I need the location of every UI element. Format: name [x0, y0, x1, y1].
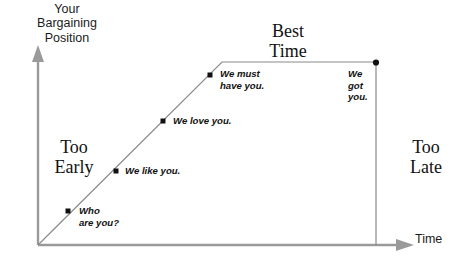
point-label-we-got-you: We got you.	[348, 68, 368, 103]
data-point-we-must-have-you	[208, 73, 213, 78]
point-label-who-are-you: Who are you?	[79, 205, 119, 228]
y-axis-title: Your Bargaining Position	[12, 2, 122, 45]
zone-label-best-time: Best Time	[243, 21, 333, 61]
arrow-up-icon	[32, 45, 44, 62]
point-label-we-must-have-you: We must have you.	[220, 68, 264, 91]
arrow-right-icon	[396, 239, 414, 251]
point-label-we-like-you: We like you.	[125, 165, 180, 177]
zone-label-too-late: Too Late	[396, 137, 456, 177]
bargaining-position-diagram: Your Bargaining Position Time Too Early …	[0, 0, 457, 261]
point-label-we-love-you: We love you.	[173, 115, 231, 127]
data-point-we-got-you	[373, 59, 379, 65]
zone-label-too-early: Too Early	[38, 137, 110, 177]
data-point-we-love-you	[161, 119, 166, 124]
data-point-we-like-you	[114, 169, 119, 174]
x-axis-title: Time	[415, 233, 442, 247]
data-point-who-are-you	[66, 209, 71, 214]
